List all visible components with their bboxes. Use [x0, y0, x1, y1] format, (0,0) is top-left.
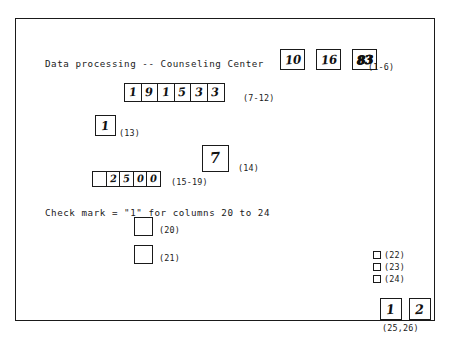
checkmark-instruction: Check mark = "1" for columns 20 to 24 — [45, 208, 270, 217]
handwritten-value: 5 — [123, 174, 131, 184]
data-cell[interactable]: 1 — [380, 298, 402, 320]
checkbox-icon[interactable] — [373, 251, 381, 259]
box-group-col-20 — [134, 217, 153, 236]
data-cell[interactable]: 1 — [95, 115, 116, 136]
handwritten-value: 2 — [415, 302, 425, 316]
handwritten-value: 7 — [210, 151, 221, 167]
column-caption-1-6: (1-6) — [368, 63, 394, 71]
handwritten-value: 2 — [109, 174, 117, 184]
box-group-cols-25-26: 1 2 — [380, 298, 438, 320]
field-col-20[interactable] — [134, 217, 153, 236]
field-col-13[interactable]: 1 — [95, 115, 116, 136]
box-group-col-13: 1 — [95, 115, 116, 136]
column-caption-24: (24) — [384, 275, 405, 283]
handwritten-value: 0 — [136, 174, 144, 184]
data-cell[interactable]: 3 — [207, 83, 225, 102]
column-caption-15-19: (15-19) — [171, 178, 208, 186]
checkbox-icon[interactable] — [373, 263, 381, 271]
data-cell[interactable]: 9 — [141, 83, 159, 102]
field-cols-25-26[interactable]: 1 2 — [380, 298, 438, 320]
handwritten-value: 1 — [101, 119, 110, 132]
data-cell[interactable]: 10 — [280, 49, 305, 70]
field-cols-15-19[interactable]: 2 5 0 0 — [92, 171, 161, 187]
handwritten-value: 16 — [320, 53, 337, 66]
box-group-cols-15-19: 2 5 0 0 — [92, 171, 161, 187]
handwritten-value: 5 — [178, 86, 187, 98]
column-caption-21: (21) — [159, 254, 180, 262]
column-caption-14: (14) — [238, 164, 259, 172]
column-caption-25-26: (25,26) — [382, 324, 419, 332]
field-col-14[interactable]: 7 — [202, 145, 229, 172]
column-caption-20: (20) — [159, 226, 180, 234]
data-cell[interactable]: 1 — [157, 83, 175, 102]
column-caption-23: (23) — [384, 263, 405, 271]
field-col-21[interactable] — [134, 245, 153, 264]
column-caption-7-12: (7-12) — [243, 94, 274, 102]
data-cell[interactable]: 7 — [202, 145, 229, 172]
field-cols-7-12[interactable]: 1 9 1 5 3 3 — [124, 83, 225, 102]
data-cell[interactable]: 2 — [409, 298, 431, 320]
box-group-cols-7-12: 1 9 1 5 3 3 — [124, 83, 225, 102]
data-cell[interactable]: 16 — [316, 49, 341, 70]
data-cell[interactable]: 3 — [190, 83, 208, 102]
column-caption-13: (13) — [119, 129, 140, 137]
field-col-23[interactable]: (23) — [373, 263, 405, 271]
field-col-24[interactable]: (24) — [373, 275, 405, 283]
checkbox-cell[interactable] — [134, 217, 153, 236]
data-cell[interactable]: 5 — [174, 83, 192, 102]
handwritten-value: 1 — [162, 86, 171, 98]
checkbox-icon[interactable] — [373, 275, 381, 283]
handwritten-value: 1 — [386, 302, 396, 316]
data-cell[interactable]: 0 — [146, 171, 161, 187]
checkbox-cell[interactable] — [134, 245, 153, 264]
column-caption-22: (22) — [384, 251, 405, 259]
data-cell[interactable]: 1 — [124, 83, 142, 102]
form-title: Data processing -- Counseling Center — [45, 59, 264, 68]
box-group-col-21 — [134, 245, 153, 264]
scanned-form-frame: Data processing -- Counseling Center 10 … — [15, 18, 435, 321]
handwritten-value: 9 — [145, 86, 154, 98]
handwritten-value: 0 — [150, 174, 158, 184]
box-group-col-14: 7 — [202, 145, 229, 172]
handwritten-value: 3 — [211, 86, 220, 98]
handwritten-value: 1 — [129, 86, 138, 98]
handwritten-value: 3 — [195, 86, 204, 98]
handwritten-value: 10 — [284, 53, 301, 66]
field-col-22[interactable]: (22) — [373, 251, 405, 259]
